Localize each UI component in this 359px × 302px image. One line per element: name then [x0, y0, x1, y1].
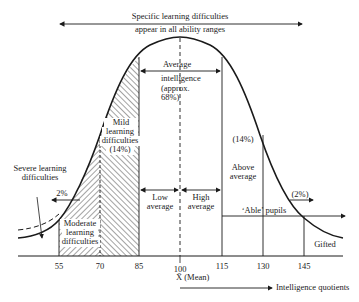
iq-distribution-diagram: Specific learning difficulties appear in…	[0, 0, 359, 302]
severe-pointer-arrow	[37, 197, 42, 238]
tick-85: 85	[135, 261, 144, 271]
above-pct: (14%)	[230, 135, 256, 145]
above-average-2: average	[226, 172, 260, 182]
high-average-2: average	[184, 202, 218, 212]
low-average-2: average	[144, 202, 176, 212]
tick-115: 115	[216, 261, 228, 271]
severe-label-2: difficulties	[10, 173, 70, 183]
tick-55: 55	[55, 261, 64, 271]
diagram-graphics	[0, 0, 359, 302]
average-label: Average	[163, 60, 191, 70]
gifted-pct: (2%)	[287, 190, 313, 200]
tick-130: 130	[257, 261, 270, 271]
able-pupils-label: ‘Able’ pupils	[236, 206, 292, 216]
mean-label: X̄ (Mean)	[176, 273, 209, 283]
mild-hatch-region	[100, 57, 139, 256]
tick-70: 70	[96, 261, 105, 271]
header-line1: Specific learning difficulties	[130, 12, 230, 22]
gifted-label: Gifted	[310, 240, 340, 250]
average-label-4: 68%)	[161, 93, 179, 103]
dashed-alt-curve	[18, 214, 59, 230]
severe-pct: 2%	[52, 189, 72, 199]
header-line2: appear in all ability ranges	[130, 25, 230, 35]
tick-145: 145	[298, 261, 311, 271]
x-axis-label: Intelligence quotients	[276, 283, 349, 293]
moderate-label-3: difficulties	[60, 237, 100, 247]
mild-label-4: (14%)	[106, 145, 134, 155]
